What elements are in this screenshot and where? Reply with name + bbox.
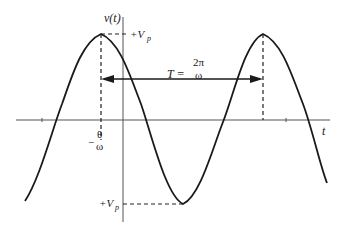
y-axis-label: v(t): [104, 11, 121, 25]
phase-offset-label: − θ ω: [88, 128, 103, 152]
svg-text:ω: ω: [96, 140, 103, 152]
svg-text:+V: +V: [130, 28, 145, 40]
period-label: T = 2π ω: [167, 56, 205, 81]
svg-text:ω: ω: [195, 69, 202, 81]
peak-bottom-label: +V p: [99, 197, 119, 212]
arrowhead-left-icon: [101, 75, 114, 83]
sine-wave-diagram: v(t) t +V p +V p − θ ω T = 2π ω: [0, 0, 343, 231]
svg-text:2π: 2π: [193, 56, 205, 68]
sine-curve: [25, 34, 327, 204]
arrowhead-right-icon: [250, 75, 263, 83]
svg-text:θ: θ: [97, 128, 102, 140]
x-axis-label: t: [322, 124, 326, 138]
svg-text:p: p: [114, 203, 119, 212]
peak-top-label: +V p: [130, 28, 151, 43]
svg-text:−: −: [88, 136, 94, 148]
svg-text:p: p: [146, 34, 151, 43]
svg-text:T =: T =: [167, 67, 185, 81]
svg-text:+V: +V: [99, 197, 114, 209]
